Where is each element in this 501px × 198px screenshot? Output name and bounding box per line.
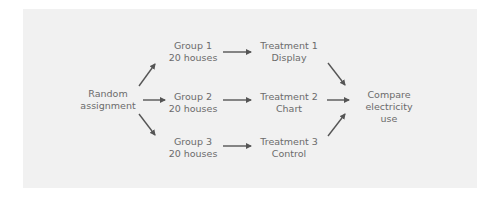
node-label-line3: use — [365, 113, 412, 125]
node-label-line1: Group 3 — [169, 136, 218, 148]
arrow-treatment3-to-end — [328, 114, 345, 136]
node-group-3: Group 3 20 houses — [169, 136, 218, 160]
node-label-line1: Treatment 3 — [260, 136, 317, 148]
node-label-line2: Display — [260, 52, 317, 64]
node-label-line1: Compare — [365, 89, 412, 101]
node-group-1: Group 1 20 houses — [169, 40, 218, 64]
arrow-start-to-group1 — [139, 64, 155, 86]
node-label-line2: assignment — [80, 100, 135, 112]
node-label-line1: Treatment 1 — [260, 40, 317, 52]
arrows-layer — [0, 0, 501, 198]
node-label-line2: 20 houses — [169, 52, 218, 64]
node-label-line2: Chart — [260, 103, 317, 115]
node-label-line2: electricity — [365, 101, 412, 113]
node-label-line1: Random — [80, 88, 135, 100]
node-label-line1: Group 2 — [169, 91, 218, 103]
node-label-line2: Control — [260, 148, 317, 160]
node-compare-electricity-use: Compare electricity use — [365, 89, 412, 125]
arrow-start-to-group3 — [139, 114, 155, 135]
node-group-2: Group 2 20 houses — [169, 91, 218, 115]
node-label-line2: 20 houses — [169, 103, 218, 115]
node-label-line2: 20 houses — [169, 148, 218, 160]
node-label-line1: Treatment 2 — [260, 91, 317, 103]
node-label-line1: Group 1 — [169, 40, 218, 52]
arrow-treatment1-to-end — [328, 63, 345, 85]
node-treatment-2: Treatment 2 Chart — [260, 91, 317, 115]
node-treatment-3: Treatment 3 Control — [260, 136, 317, 160]
node-treatment-1: Treatment 1 Display — [260, 40, 317, 64]
node-random-assignment: Random assignment — [80, 88, 135, 112]
